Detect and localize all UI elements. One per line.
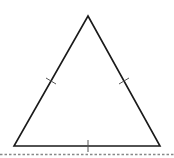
triangle-outline [14, 16, 160, 146]
diagram-canvas [0, 0, 174, 158]
equilateral-triangle-figure [0, 0, 174, 158]
tick-mark-left-side [46, 78, 56, 84]
tick-mark-right-side [119, 78, 129, 84]
